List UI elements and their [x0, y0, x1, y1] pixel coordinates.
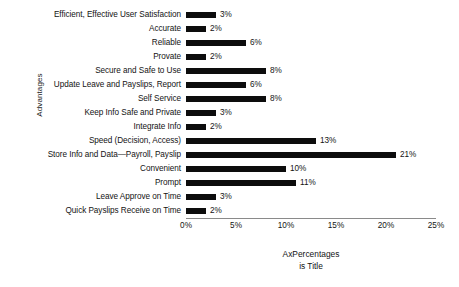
bar [186, 124, 206, 130]
bar-row: Convenient10% [0, 162, 459, 176]
bar [186, 180, 296, 186]
bar [186, 96, 266, 102]
bar-track: 2% [186, 50, 459, 64]
bar-category-label: Store Info and Data—Payroll, Payslip [48, 148, 181, 162]
bar-row: Reliable6% [0, 36, 459, 50]
bar-row: Integrate Info2% [0, 120, 459, 134]
bar-track: 2% [186, 204, 459, 218]
bar [186, 194, 216, 200]
bar-track: 2% [186, 120, 459, 134]
x-axis-title: AxPercentages is Title [186, 249, 436, 272]
bar-value-label: 6% [250, 78, 262, 92]
x-axis-tick-label: 25% [416, 221, 456, 230]
bar-track: 13% [186, 134, 459, 148]
bar-value-label: 2% [210, 204, 222, 218]
bar-value-label: 3% [220, 190, 232, 204]
bar-value-label: 11% [300, 176, 316, 190]
x-axis-tick-labels: 0%5%10%15%20%25% [0, 221, 459, 233]
bar-track: 8% [186, 92, 459, 106]
bar [186, 110, 216, 116]
bar-row: Quick Payslips Receive on Time2% [0, 204, 459, 218]
bar-track: 3% [186, 190, 459, 204]
bar-category-label: Convenient [140, 162, 181, 176]
bar [186, 166, 286, 172]
bar-row: Efficient, Effective User Satisfaction3% [0, 8, 459, 22]
bar-value-label: 13% [320, 134, 336, 148]
bar-category-label: Quick Payslips Receive on Time [66, 204, 181, 218]
bar-track: 21% [186, 148, 459, 162]
bar [186, 68, 266, 74]
bar [186, 40, 246, 46]
bar-value-label: 3% [220, 106, 232, 120]
bar-row: Prompt11% [0, 176, 459, 190]
bar-category-label: Update Leave and Payslips, Report [54, 78, 181, 92]
bar-category-label: Leave Approve on Time [96, 190, 181, 204]
bar-track: 10% [186, 162, 459, 176]
bar-category-label: Self Service [138, 92, 181, 106]
bar-value-label: 6% [250, 36, 262, 50]
bar-row: Leave Approve on Time3% [0, 190, 459, 204]
bar-track: 3% [186, 8, 459, 22]
bar-track: 6% [186, 36, 459, 50]
bar-value-label: 8% [270, 64, 282, 78]
bar-category-label: Efficient, Effective User Satisfaction [54, 8, 181, 22]
x-axis-title-line-1: AxPercentages [186, 249, 436, 261]
bar-row: Provate2% [0, 50, 459, 64]
x-axis-tick-label: 15% [316, 221, 356, 230]
x-axis-title-line-2: is Title [186, 261, 436, 273]
bar-value-label: 2% [210, 120, 222, 134]
bar-category-label: Integrate Info [133, 120, 181, 134]
bar-row: Secure and Safe to Use8% [0, 64, 459, 78]
bar-track: 2% [186, 22, 459, 36]
bar-track: 8% [186, 64, 459, 78]
bar-track: 11% [186, 176, 459, 190]
bar-category-label: Speed (Decision, Access) [89, 134, 181, 148]
bar-row: Self Service8% [0, 92, 459, 106]
x-axis-tick-label: 5% [216, 221, 256, 230]
x-axis-tick-label: 20% [366, 221, 406, 230]
bar-track: 6% [186, 78, 459, 92]
x-axis-tick-label: 0% [166, 221, 206, 230]
bar-row: Accurate2% [0, 22, 459, 36]
bar [186, 54, 206, 60]
bar-row: Update Leave and Payslips, Report6% [0, 78, 459, 92]
bar [186, 26, 206, 32]
bar-row: Keep Info Safe and Private3% [0, 106, 459, 120]
bar-value-label: 2% [210, 22, 222, 36]
bar-value-label: 3% [220, 8, 232, 22]
bar-value-label: 2% [210, 50, 222, 64]
bar-chart-plot-area: Efficient, Effective User Satisfaction3%… [0, 8, 459, 218]
bar-category-label: Provate [153, 50, 181, 64]
bar-category-label: Secure and Safe to Use [95, 64, 181, 78]
bar [186, 208, 206, 214]
bar-row: Store Info and Data—Payroll, Payslip21% [0, 148, 459, 162]
bar-value-label: 10% [290, 162, 306, 176]
bar-category-label: Accurate [149, 22, 181, 36]
bar-row: Speed (Decision, Access)13% [0, 134, 459, 148]
bar-category-label: Prompt [155, 176, 181, 190]
bar-chart-figure: Advantages Efficient, Effective User Sat… [0, 0, 459, 287]
bar [186, 138, 316, 144]
bar-value-label: 8% [270, 92, 282, 106]
bar-category-label: Keep Info Safe and Private [84, 106, 181, 120]
bar [186, 82, 246, 88]
bar-track: 3% [186, 106, 459, 120]
x-axis-line [186, 218, 436, 219]
bar [186, 152, 396, 158]
bar-category-label: Reliable [152, 36, 181, 50]
bar-value-label: 21% [400, 148, 416, 162]
x-axis-tick-label: 10% [266, 221, 306, 230]
bar [186, 12, 216, 18]
